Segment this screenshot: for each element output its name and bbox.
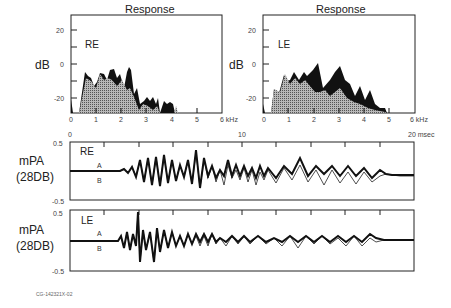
- spectrum-re-xtick-1: 1: [94, 116, 98, 123]
- spectrum-le-ytick-20: 20: [248, 27, 256, 34]
- waveform-le-trace-a: [70, 212, 414, 262]
- spectrum-re-panel-label: RE: [85, 40, 99, 50]
- spectrum-le-xtick-6: 6 kHz: [410, 116, 428, 123]
- spectrum-re-xtick-0: 0: [69, 116, 73, 123]
- spectrum-re-ytick-minus20: -20: [54, 95, 64, 102]
- waveform-le-trace-a-label: A: [97, 230, 102, 237]
- spectrum-re-ytick-20: 20: [56, 27, 64, 34]
- spectrum-le-xtick-0: 0: [262, 116, 266, 123]
- spectrum-re-xtick-6: 6 kHz: [220, 116, 238, 123]
- figure-graphics: [0, 0, 451, 308]
- waveform-re-ylabel: mPA: [19, 155, 44, 167]
- waveform-le-ylabel: mPA: [19, 224, 44, 236]
- spectrum-le-ytick-minus20: -20: [246, 95, 256, 102]
- spectrum-re-plot: [71, 15, 222, 113]
- spectrum-re-xtick-2: 2: [119, 116, 123, 123]
- spectrum-re-title: Response: [125, 4, 175, 15]
- waveform-re-ytick-top: 0.5: [53, 140, 63, 147]
- spectrum-re-xtick-3: 3: [144, 116, 148, 123]
- spectrum-le-xtick-4: 4: [362, 116, 366, 123]
- waveform-re-ylabel-sub: (28DB): [16, 171, 54, 183]
- waveform-re-ytick-bottom: -0.5: [52, 198, 64, 205]
- spectrum-le-xtick-1: 1: [287, 116, 291, 123]
- waveform-le-plot: [70, 210, 414, 271]
- spectrum-re-xtick-4: 4: [170, 116, 174, 123]
- time-axis-tick-0: 0: [68, 131, 72, 138]
- waveform-le-ytick-top: 0.5: [53, 210, 63, 217]
- waveform-le-ylabel-sub: (28DB): [16, 240, 54, 252]
- spectrum-le-panel-label: LE: [278, 40, 290, 50]
- waveform-le-panel-label: LE: [81, 216, 93, 226]
- spectrum-re-xtick-5: 5: [195, 116, 199, 123]
- figure-code: CG-142321X-02: [36, 292, 72, 297]
- spectrum-le-ytick-0: 0: [252, 61, 256, 68]
- spectrum-re-ytick-0: 0: [60, 61, 64, 68]
- waveform-re-trace-b-label: B: [97, 177, 102, 184]
- spectrum-re-ylabel: dB: [35, 59, 50, 71]
- time-axis-tick-10: 10: [238, 131, 246, 138]
- spectrum-le-xtick-5: 5: [387, 116, 391, 123]
- waveform-le-ytick-bottom: -0.5: [52, 268, 64, 275]
- waveform-re-trace-a-label: A: [97, 162, 102, 169]
- spectrum-le-xtick-2: 2: [312, 116, 316, 123]
- time-axis-tick-20: 20 msec: [408, 131, 434, 138]
- waveform-re-plot: [70, 142, 414, 200]
- waveform-re-trace-a: [70, 150, 414, 188]
- waveform-re-panel-label: RE: [80, 147, 94, 157]
- waveform-le-trace-b-label: B: [97, 245, 102, 252]
- spectrum-le-ylabel: dB: [229, 59, 244, 71]
- spectrum-le-xtick-3: 3: [337, 116, 341, 123]
- spectrum-le-title: Response: [316, 4, 366, 15]
- spectrum-le-plot: [263, 15, 415, 113]
